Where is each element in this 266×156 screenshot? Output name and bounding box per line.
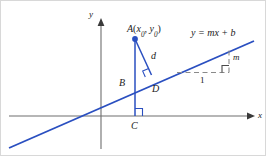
distance-label: d xyxy=(151,51,156,61)
point-a-coords-close: ) xyxy=(158,23,161,34)
right-angle-marker-slope xyxy=(222,66,229,73)
slope-rise-label: m xyxy=(233,53,240,62)
point-a-coord-x-subscript: 0 xyxy=(141,31,145,39)
slope-run-label: 1 xyxy=(200,76,205,85)
point-c-label: C xyxy=(131,121,138,131)
point-a-coord-y-subscript: 0 xyxy=(154,31,158,39)
x-axis-label: x xyxy=(258,111,262,120)
line-y-equals-mx-plus-b xyxy=(9,41,254,148)
line-equation-label-group: y = mx + b xyxy=(191,28,236,38)
y-axis-label: y xyxy=(89,10,93,19)
segment-ad-distance xyxy=(135,39,152,75)
point-b-label: B xyxy=(119,78,125,88)
right-angle-marker-c xyxy=(135,109,143,117)
figure-canvas: y x A(x0, y0) y = mx + b d B D C 1 m xyxy=(0,0,266,156)
point-a-label-group: A(x0, y0) xyxy=(127,24,161,37)
y-axis xyxy=(98,18,105,149)
line-equation-rest: = mx + b xyxy=(195,27,235,38)
x-axis-arrowhead xyxy=(247,112,255,119)
point-d-label: D xyxy=(152,84,159,94)
x-axis xyxy=(9,112,255,119)
y-axis-arrowhead xyxy=(98,18,105,26)
